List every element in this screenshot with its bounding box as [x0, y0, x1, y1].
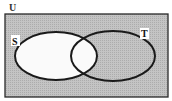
set-s-label: S — [12, 36, 18, 47]
set-t-label: T — [141, 28, 148, 39]
universe-label: U — [9, 2, 16, 13]
venn-diagram: U S T — [0, 0, 172, 101]
